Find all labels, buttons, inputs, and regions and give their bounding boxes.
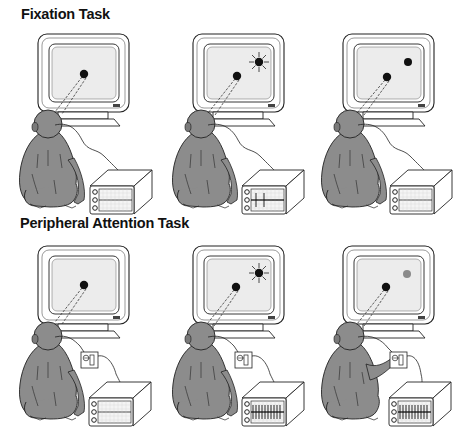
recording-box	[389, 382, 451, 426]
flashing-target	[249, 263, 269, 283]
lever-cable	[407, 356, 422, 382]
recording-box	[90, 170, 152, 214]
fixation-panel-3	[321, 34, 452, 214]
fixation-point	[383, 73, 391, 81]
fixation-panel-1	[19, 34, 152, 214]
lever-box	[390, 352, 407, 368]
target	[404, 58, 412, 66]
fixation-point	[80, 70, 88, 78]
lever-cable	[252, 356, 274, 382]
fixation-point	[80, 281, 88, 289]
recording-box	[89, 382, 151, 426]
flashing-target	[249, 52, 269, 72]
fixation-point	[233, 72, 241, 80]
attention-panel-2	[172, 246, 304, 426]
recording-box	[242, 382, 304, 426]
diagram-canvas	[0, 0, 471, 438]
lever-cable	[98, 356, 120, 382]
recording-box	[390, 170, 452, 214]
lever-box	[235, 352, 252, 368]
fixation-point	[232, 283, 240, 291]
attention-panel-3	[321, 246, 451, 426]
dimmed-target	[403, 270, 411, 278]
attention-panel-1	[19, 246, 151, 426]
fixation-point	[382, 283, 390, 291]
lever-box	[81, 352, 98, 368]
recording-box	[242, 170, 304, 214]
fixation-panel-2	[172, 34, 304, 214]
